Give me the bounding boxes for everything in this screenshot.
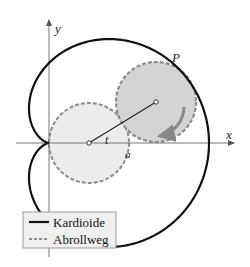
y-axis-label: y (53, 21, 61, 36)
rolling-center-dot (154, 100, 158, 104)
radius-label: a (125, 148, 131, 160)
legend-item-abrollweg: Abrollweg (53, 232, 109, 247)
x-axis-label: x (225, 127, 232, 142)
fixed-center-dot (87, 141, 91, 145)
legend: Kardioide Abrollweg (23, 212, 116, 248)
point-label: P (171, 50, 180, 65)
legend-item-kardioide: Kardioide (53, 215, 105, 230)
cardioid-diagram: y x P t a Kardioide Abrollweg (0, 0, 250, 267)
